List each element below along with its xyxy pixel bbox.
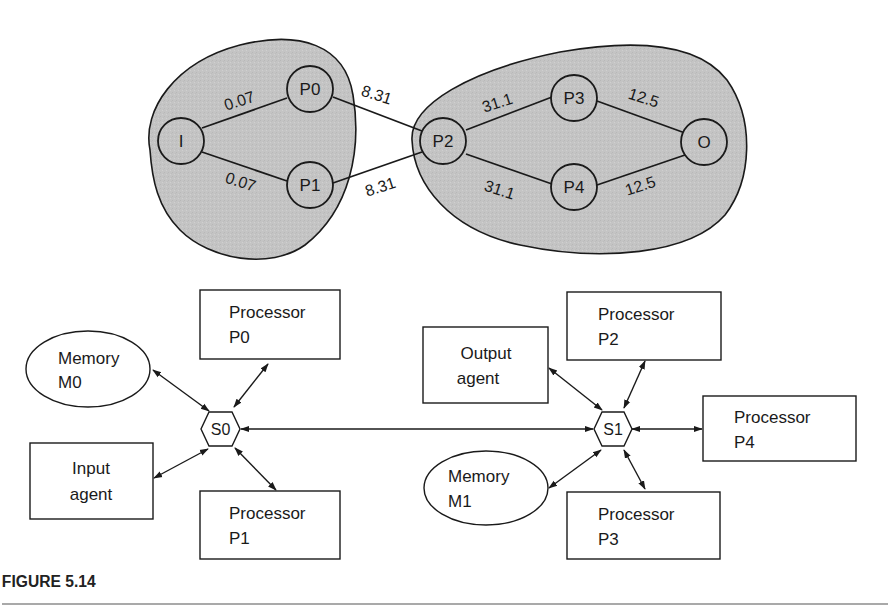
memory-m0: Memory M0: [26, 331, 150, 407]
component-label-line1: Processor: [734, 408, 811, 427]
component-label-line2: P1: [229, 529, 250, 548]
memory-m1: Memory M1: [424, 451, 548, 525]
link-input-s0: [154, 449, 208, 478]
figure-canvas: I P0 P1 P2 P3 P4 O 0.07 0.07 8.31 8: [0, 0, 890, 611]
figure-caption: FIGURE 5.14: [2, 571, 888, 604]
switch-s0: S0: [201, 412, 240, 446]
component-label-line1: Output: [460, 344, 511, 363]
graph-node-i: I: [158, 118, 204, 164]
component-label-line2: P0: [229, 328, 250, 347]
component-label-line1: Processor: [229, 303, 306, 322]
figure-caption-text: FIGURE 5.14: [2, 571, 96, 590]
switch-label: S1: [603, 421, 623, 438]
component-label-line1: Processor: [598, 505, 675, 524]
node-label: P1: [300, 176, 321, 195]
node-label: O: [697, 133, 710, 152]
processor-p4: Processor P4: [703, 396, 856, 461]
link-p3-s1: [624, 450, 645, 489]
processor-p0: Processor P0: [200, 290, 340, 359]
node-label: P3: [564, 89, 585, 108]
edge-weight-p1-p2: 8.31: [363, 174, 398, 200]
architecture-diagram: S0 S1 Memory M0 Processor P0 Input agent…: [26, 290, 856, 559]
switch-label: S0: [211, 421, 231, 438]
node-label: P0: [300, 80, 321, 99]
link-m0-s0: [153, 370, 209, 411]
component-label-line2: agent: [457, 369, 500, 388]
switch-s1: S1: [594, 412, 632, 446]
processor-p2: Processor P2: [567, 292, 721, 360]
processor-p3: Processor P3: [567, 492, 720, 559]
link-p0-s0: [234, 364, 268, 407]
component-label-line1: Memory: [58, 349, 120, 368]
component-label-line2: M1: [448, 492, 472, 511]
graph-node-p2: P2: [420, 118, 466, 164]
output-agent: Output agent: [423, 327, 548, 403]
node-label: P4: [564, 178, 585, 197]
component-label-line2: agent: [70, 485, 113, 504]
component-label-line1: Processor: [598, 305, 675, 324]
link-p1-s0: [235, 448, 276, 490]
graph-node-p1: P1: [287, 162, 333, 208]
component-label-line1: Input: [72, 459, 110, 478]
graph-node-o: O: [681, 119, 727, 165]
input-agent: Input agent: [30, 443, 153, 519]
component-label-line2: P3: [598, 530, 619, 549]
node-label: P2: [433, 132, 454, 151]
graph-node-p4: P4: [551, 164, 597, 210]
graph-node-p0: P0: [287, 66, 333, 112]
component-label-line2: M0: [58, 373, 82, 392]
link-m1-s1: [549, 450, 601, 488]
task-graph: I P0 P1 P2 P3 P4 O 0.07 0.07 8.31 8: [149, 39, 747, 259]
component-label-line1: Processor: [229, 504, 306, 523]
component-label-line1: Memory: [448, 467, 510, 486]
component-label-line2: P2: [598, 330, 619, 349]
node-label: I: [179, 132, 184, 151]
edge-weight-p0-p2: 8.31: [359, 82, 394, 108]
component-label-line2: P4: [734, 433, 755, 452]
processor-p1: Processor P1: [200, 491, 340, 559]
link-output-s1: [549, 368, 602, 410]
link-p2-s1: [624, 361, 645, 408]
graph-node-p3: P3: [551, 75, 597, 121]
